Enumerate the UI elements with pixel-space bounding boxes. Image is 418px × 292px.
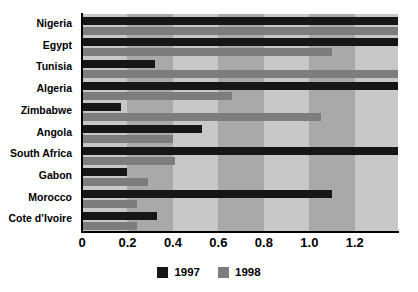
bar-south-africa-1998 (82, 157, 175, 165)
bar-tunisia-1998 (82, 70, 398, 78)
bar-nigeria-1998 (82, 27, 398, 35)
bar-cote-d-ivoire-1997 (82, 212, 157, 220)
category-axis-labels: NigeriaEgyptTunisiaAlgeriaZimbabweAngola… (0, 14, 76, 231)
x-tick-0: 0 (78, 235, 85, 250)
plot-band (127, 14, 172, 231)
legend-entry-1998: 1998 (218, 266, 261, 278)
chart-legend: 19971998 (0, 262, 418, 282)
bar-nigeria-1997 (82, 17, 398, 25)
category-label-morocco: Morocco (0, 192, 72, 203)
legend-label-1998: 1998 (235, 266, 261, 278)
bar-algeria-1998 (82, 92, 232, 100)
plot-band (355, 14, 398, 231)
bar-morocco-1998 (82, 200, 137, 208)
bar-tunisia-1997 (82, 60, 155, 68)
legend-entry-1997: 1997 (157, 266, 200, 278)
x-tick-1-0: 1.0 (300, 235, 318, 250)
x-tick-1-2: 1.2 (346, 235, 364, 250)
bar-gabon-1998 (82, 178, 148, 186)
x-tick-0-2: 0.2 (118, 235, 136, 250)
plot-band (173, 14, 218, 231)
bar-gabon-1997 (82, 168, 127, 176)
legend-swatch-1998 (218, 267, 229, 278)
category-label-south-africa: South Africa (0, 148, 72, 159)
category-label-egypt: Egypt (0, 40, 72, 51)
plot-band (309, 14, 354, 231)
category-label-nigeria: Nigeria (0, 18, 72, 29)
plot-band (218, 14, 263, 231)
plot-band (264, 14, 309, 231)
x-tick-0-8: 0.8 (255, 235, 273, 250)
category-label-gabon: Gabon (0, 170, 72, 181)
bar-angola-1997 (82, 125, 202, 133)
legend-swatch-1997 (157, 267, 168, 278)
bar-chart: NigeriaEgyptTunisiaAlgeriaZimbabweAngola… (0, 0, 418, 292)
bar-egypt-1998 (82, 48, 332, 56)
legend-label-1997: 1997 (174, 266, 200, 278)
bar-algeria-1997 (82, 82, 398, 90)
x-tick-0-4: 0.4 (164, 235, 182, 250)
category-label-zimbabwe: Zimbabwe (0, 105, 72, 116)
bar-angola-1998 (82, 135, 173, 143)
bar-zimbabwe-1998 (82, 113, 321, 121)
x-axis-tick-labels: 00.20.40.60.81.01.2 (0, 235, 418, 255)
category-label-cote-d-ivoire: Cote d’Ivoire (0, 213, 72, 224)
plot-band (82, 14, 127, 231)
bar-egypt-1997 (82, 38, 398, 46)
category-label-algeria: Algeria (0, 83, 72, 94)
y-axis-line (81, 13, 83, 232)
plot-area (82, 14, 398, 231)
bar-zimbabwe-1997 (82, 103, 121, 111)
category-label-tunisia: Tunisia (0, 61, 72, 72)
category-label-angola: Angola (0, 127, 72, 138)
x-axis-line (81, 231, 399, 233)
bar-morocco-1997 (82, 190, 332, 198)
x-tick-0-6: 0.6 (209, 235, 227, 250)
bar-cote-d-ivoire-1998 (82, 222, 137, 230)
bar-south-africa-1997 (82, 147, 398, 155)
